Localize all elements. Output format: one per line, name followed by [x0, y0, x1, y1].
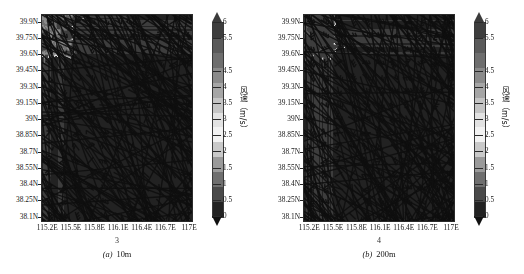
- map-canvas-a: [41, 14, 193, 222]
- colorbar-tick-label: 1: [223, 180, 227, 188]
- colorbar-segment: [213, 98, 223, 113]
- x-tick-mark: [118, 219, 119, 222]
- caption-text-a: 10m: [116, 250, 131, 259]
- x-tick-mark: [333, 219, 334, 222]
- x-tick-mark: [451, 219, 452, 222]
- x-tick-label: 115.5E: [60, 223, 81, 232]
- x-tick-mark: [309, 219, 310, 222]
- colorbar-tick-mark: [475, 200, 483, 201]
- map-area-a: [41, 14, 193, 222]
- figure-number-b: 4: [369, 236, 389, 245]
- colorbar-tick-label: 5.5: [485, 34, 494, 42]
- colorbar-tick-label: 2: [485, 147, 489, 155]
- colorbar-tick-label: 5.5: [223, 34, 232, 42]
- colorbar-tick-mark: [475, 22, 483, 23]
- y-tick-label: 39.45N: [16, 66, 38, 74]
- y-tick-label: 39.15N: [16, 99, 38, 107]
- x-tick-mark: [404, 219, 405, 222]
- x-tick-mark: [95, 219, 96, 222]
- colorbar-tick-label: 0.5: [223, 196, 232, 204]
- y-tick-label: 38.1N: [20, 213, 38, 221]
- x-tick-label: 116.4E: [393, 223, 414, 232]
- colorbar-tick-mark: [213, 71, 221, 72]
- y-tick-label: 38.4N: [20, 180, 38, 188]
- colorbar-tick-mark: [475, 168, 483, 169]
- x-tick-mark: [189, 219, 190, 222]
- colorbar-tick-label: 2: [223, 147, 227, 155]
- x-tick-label: 115.8E: [84, 223, 105, 232]
- colorbar-tick-label: 4: [485, 83, 489, 91]
- colorbar-tick-label: 3.5: [223, 99, 232, 107]
- caption-a: (a)10m: [37, 250, 197, 260]
- colorbar-tick-mark: [213, 168, 221, 169]
- colorbar-tick-label: 1: [485, 180, 489, 188]
- colorbar-bottom-arrow-a: [212, 216, 222, 226]
- colorbar-segment: [475, 98, 485, 113]
- colorbar-tick-mark: [475, 103, 483, 104]
- colorbar-segment: [475, 157, 485, 172]
- wind-barb-overlay-a: [42, 15, 193, 222]
- colorbar-tick-label: 0: [485, 212, 489, 220]
- x-axis-labels-a: 115.2E115.5E115.8E116.1E116.4E116.7E117E: [41, 223, 193, 235]
- x-tick-label: 117E: [443, 223, 458, 232]
- colorbar-segment: [213, 172, 223, 187]
- y-tick-label: 38.85N: [16, 131, 38, 139]
- y-tick-label: 39.45N: [278, 66, 300, 74]
- y-axis-labels-b: 39.9N39.75N39.6N39.45N39.3N39.15N39N38.8…: [262, 14, 303, 222]
- colorbar-tick-label: 6: [223, 18, 227, 26]
- colorbar-tick-mark: [213, 103, 221, 104]
- colorbar-tick-label: 2.5: [485, 131, 494, 139]
- y-tick-label: 38.25N: [16, 196, 38, 204]
- figure-root: 39.9N39.75N39.6N39.45N39.3N39.15N39N38.8…: [0, 0, 524, 274]
- colorbar-tick-mark: [475, 216, 483, 217]
- y-tick-label: 38.7N: [282, 148, 300, 156]
- colorbar-tick-label: 3: [223, 115, 227, 123]
- caption-text-b: 200m: [376, 250, 395, 259]
- y-tick-label: 39.3N: [282, 83, 300, 91]
- wind-barb-overlay-b: [304, 15, 455, 222]
- panel-a: 39.9N39.75N39.6N39.45N39.3N39.15N39N38.8…: [0, 0, 262, 274]
- colorbar-segment: [475, 53, 485, 68]
- x-tick-label: 116.1E: [108, 223, 129, 232]
- colorbar-tick-mark: [213, 135, 221, 136]
- x-tick-label: 116.4E: [131, 223, 152, 232]
- colorbar-b: 风速（m/s） 65.54.543.532.521.510.50: [467, 12, 523, 227]
- colorbar-tick-mark: [213, 119, 221, 120]
- x-tick-label: 115.5E: [322, 223, 343, 232]
- y-tick-label: 39.15N: [278, 99, 300, 107]
- y-tick-label: 39N: [287, 115, 300, 123]
- colorbar-tick-mark: [475, 151, 483, 152]
- y-tick-label: 38.25N: [278, 196, 300, 204]
- colorbar-tick-label: 0: [223, 212, 227, 220]
- colorbar-segment: [475, 38, 485, 53]
- colorbar-tick-label: 6: [485, 18, 489, 26]
- x-tick-label: 116.7E: [155, 223, 176, 232]
- map-area-b: [303, 14, 455, 222]
- colorbar-tick-mark: [475, 87, 483, 88]
- colorbar-tick-mark: [213, 200, 221, 201]
- colorbar-tick-label: 3.5: [485, 99, 494, 107]
- x-tick-mark: [357, 219, 358, 222]
- colorbar-tick-mark: [475, 184, 483, 185]
- colorbar-tick-label: 0.5: [485, 196, 494, 204]
- x-tick-mark: [427, 219, 428, 222]
- colorbar-segment: [213, 113, 223, 128]
- colorbar-tick-label: 2.5: [223, 131, 232, 139]
- colorbar-segment: [475, 113, 485, 128]
- colorbar-tick-mark: [213, 151, 221, 152]
- x-tick-mark: [71, 219, 72, 222]
- x-tick-label: 116.1E: [370, 223, 391, 232]
- y-axis-labels-a: 39.9N39.75N39.6N39.45N39.3N39.15N39N38.8…: [0, 14, 41, 222]
- panel-b: 39.9N39.75N39.6N39.45N39.3N39.15N39N38.8…: [262, 0, 524, 274]
- y-tick-label: 39.75N: [278, 34, 300, 42]
- y-tick-label: 39.6N: [282, 50, 300, 58]
- colorbar-segment: [213, 38, 223, 53]
- colorbar-segment: [475, 23, 485, 38]
- caption-label-a: (a): [103, 250, 113, 259]
- x-axis-labels-b: 115.2E115.5E115.8E116.1E116.4E116.7E117E: [303, 223, 455, 235]
- colorbar-tick-mark: [475, 119, 483, 120]
- x-tick-label: 117E: [181, 223, 196, 232]
- colorbar-tick-label: 4.5: [223, 67, 232, 75]
- colorbar-title-a: 风速（m/s）: [238, 86, 247, 133]
- x-tick-label: 115.8E: [346, 223, 367, 232]
